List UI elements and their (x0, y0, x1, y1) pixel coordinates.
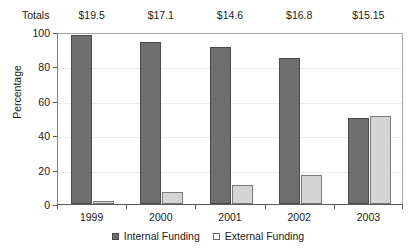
legend-item-label: Internal Funding (124, 230, 200, 242)
total-value-2002: $16.8 (286, 6, 312, 24)
total-value-2001: $14.6 (217, 6, 243, 24)
x-axis-tick-label-2000: 2000 (149, 210, 172, 224)
x-axis-tick-mark (265, 205, 266, 209)
legend-swatch-icon (112, 233, 119, 240)
x-axis-tick-labels: 19992000200120022003 (57, 210, 403, 224)
y-axis-tick-label: 0 (44, 200, 50, 210)
x-axis-tick-mark (402, 205, 403, 209)
y-axis-tick-label: 100 (32, 28, 50, 38)
x-axis-tick-mark (126, 205, 127, 209)
chart-legend: Internal FundingExternal Funding (0, 228, 416, 244)
legend-swatch-icon (213, 233, 220, 240)
bar-external-2002 (301, 175, 322, 204)
bar-internal-2003 (348, 118, 369, 204)
y-axis-tick-labels: 100806040200 (0, 33, 50, 205)
legend-item-label: External Funding (225, 230, 304, 242)
x-axis-tick-label-2001: 2001 (218, 210, 241, 224)
total-value-2003: $15.15 (352, 6, 384, 24)
bar-internal-2002 (279, 58, 300, 204)
x-axis-tick-mark (57, 205, 58, 209)
total-value-1999: $19.5 (78, 6, 104, 24)
y-axis-tick-label: 40 (38, 131, 50, 141)
legend-item-external[interactable]: External Funding (213, 230, 304, 242)
x-axis-tick-label-1999: 1999 (80, 210, 103, 224)
bar-external-2003 (370, 116, 391, 204)
totals-row-label: Totals (22, 6, 49, 24)
y-axis-tick-label: 20 (38, 166, 50, 176)
bar-external-2001 (232, 185, 253, 204)
bar-internal-2000 (140, 42, 161, 204)
bar-external-2000 (162, 192, 183, 204)
bar-internal-2001 (210, 47, 231, 204)
x-axis-tick-label-2003: 2003 (357, 210, 380, 224)
totals-row: Totals $19.5$17.1$14.6$16.8$15.15 (0, 6, 416, 24)
total-value-2000: $17.1 (148, 6, 174, 24)
x-axis-tick-mark (195, 205, 196, 209)
bar-internal-1999 (71, 35, 92, 204)
x-axis-tick-mark (334, 205, 335, 209)
y-axis-tick-label: 60 (38, 97, 50, 107)
x-axis-tick-label-2002: 2002 (288, 210, 311, 224)
y-axis-tick-label: 80 (38, 62, 50, 72)
plot-area (57, 33, 403, 205)
bar-external-1999 (93, 201, 114, 204)
legend-item-internal[interactable]: Internal Funding (112, 230, 200, 242)
bar-chart: Totals $19.5$17.1$14.6$16.8$15.15 Percen… (0, 0, 416, 249)
